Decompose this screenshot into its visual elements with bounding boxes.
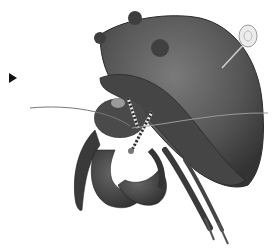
pin-head (239, 25, 257, 47)
hermit-crab-illustration (0, 0, 279, 249)
hermit-crab-drawing (0, 0, 279, 249)
